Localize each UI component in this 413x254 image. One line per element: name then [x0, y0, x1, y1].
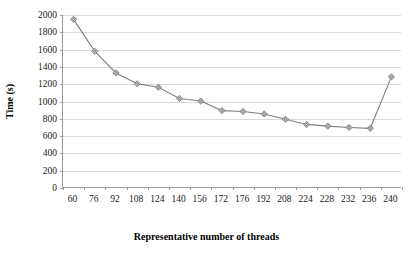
plot-area	[62, 15, 401, 188]
y-tick-label: 1600	[15, 45, 57, 55]
y-tick-label: 400	[15, 148, 57, 158]
chart-container: Time (s) 0200400600800100012001400160018…	[0, 0, 413, 254]
data-point-marker	[346, 124, 352, 130]
data-point-marker	[325, 123, 331, 129]
y-tick-label: 1000	[15, 97, 57, 107]
data-point-marker	[240, 108, 246, 114]
data-point-marker	[282, 116, 288, 122]
y-tick-label: 1200	[15, 79, 57, 89]
y-axis-title-text: Time (s)	[5, 84, 16, 119]
data-point-marker	[388, 74, 394, 80]
data-point-marker	[176, 95, 182, 101]
data-point-marker	[219, 107, 225, 113]
data-point-marker	[367, 125, 373, 131]
data-series-line	[63, 15, 402, 188]
x-tick-mark	[402, 187, 403, 190]
data-point-marker	[198, 98, 204, 104]
y-tick-label: 1800	[15, 27, 57, 37]
x-axis-title: Representative number of threads	[0, 231, 413, 242]
series-polyline	[74, 19, 392, 128]
y-tick-label: 800	[15, 114, 57, 124]
y-tick-label: 0	[15, 183, 57, 193]
y-tick-label: 1400	[15, 62, 57, 72]
y-tick-label: 600	[15, 131, 57, 141]
data-point-marker	[155, 84, 161, 90]
data-point-marker	[70, 16, 76, 22]
data-point-marker	[261, 111, 267, 117]
x-tick-label: 240	[373, 194, 407, 204]
y-tick-label: 200	[15, 166, 57, 176]
y-tick-label: 2000	[15, 10, 57, 20]
data-point-marker	[304, 121, 310, 127]
data-point-marker	[134, 81, 140, 87]
